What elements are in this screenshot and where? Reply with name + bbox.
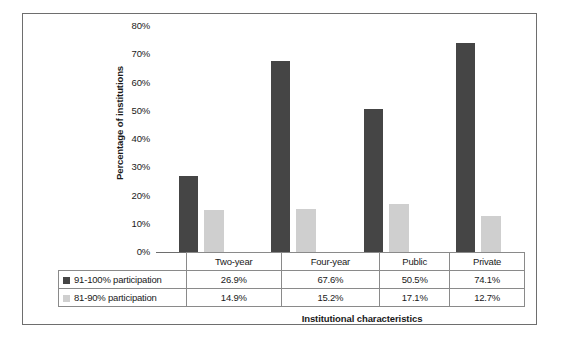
bar	[481, 216, 501, 252]
x-axis-title: Institutional characteristics	[178, 313, 546, 324]
plot-area: 80%70%60%50%40%30%20%10%0%	[156, 26, 525, 252]
legend-entry[interactable]: 91-100% participation	[59, 271, 187, 289]
data-table: Two-yearFour-yearPublicPrivate91-100% pa…	[58, 252, 525, 307]
y-tick-label: 70%	[132, 49, 150, 59]
table-cell: 12.7%	[450, 289, 525, 307]
bar	[204, 210, 224, 252]
bar	[296, 209, 316, 252]
y-tick-label: 50%	[132, 106, 150, 116]
bar-group	[248, 26, 340, 252]
table-corner-cell	[59, 253, 187, 271]
bar-group	[156, 26, 248, 252]
legend-swatch-icon	[63, 295, 70, 302]
table-cell: 74.1%	[450, 271, 525, 289]
table-cell: 67.6%	[281, 271, 380, 289]
bar	[389, 204, 409, 252]
y-tick-label: 30%	[132, 162, 150, 172]
table-header-row: Two-yearFour-yearPublicPrivate	[59, 253, 525, 271]
table-cell: 14.9%	[187, 289, 282, 307]
bar	[364, 109, 383, 252]
y-tick-label: 10%	[132, 219, 150, 229]
table-column-header: Private	[450, 253, 525, 271]
legend-entry[interactable]: 81-90% participation	[59, 289, 187, 307]
table-column-header: Two-year	[187, 253, 282, 271]
bar	[271, 61, 290, 252]
y-tick-label: 60%	[132, 78, 150, 88]
legend-label: 91-100% participation	[74, 274, 162, 285]
bar-group	[341, 26, 433, 252]
table-column-header: Public	[380, 253, 450, 271]
table-row: 81-90% participation14.9%15.2%17.1%12.7%	[59, 289, 525, 307]
table-row: 91-100% participation26.9%67.6%50.5%74.1…	[59, 271, 525, 289]
table-column-header: Four-year	[281, 253, 380, 271]
bar	[179, 176, 198, 252]
y-axis-title: Percentage of institutions	[113, 38, 127, 208]
bar-group	[433, 26, 525, 252]
chart-figure: Percentage of institutions 80%70%60%50%4…	[22, 13, 537, 325]
table-cell: 17.1%	[380, 289, 450, 307]
table-cell: 26.9%	[187, 271, 282, 289]
table-cell: 15.2%	[281, 289, 380, 307]
bar-series-container	[156, 26, 525, 252]
y-tick-label: 40%	[132, 134, 150, 144]
table-cell: 50.5%	[380, 271, 450, 289]
legend-swatch-icon	[63, 277, 70, 284]
bar	[456, 43, 475, 252]
legend-label: 81-90% participation	[74, 292, 157, 303]
y-tick-label: 20%	[132, 191, 150, 201]
y-tick-label: 80%	[132, 21, 150, 31]
